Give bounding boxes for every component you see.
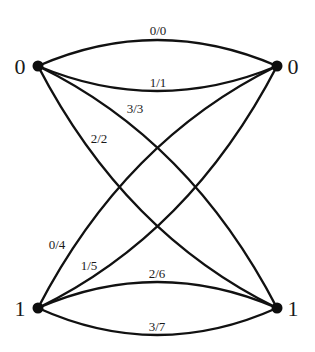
node-bottom-right [272,303,283,314]
node-bottom-left [33,303,44,314]
edge-label-0-4: 0/4 [49,237,66,252]
node-label-bottom-right: 1 [288,296,299,321]
edge-label-1-5: 1/5 [81,258,98,273]
edge-label-2-2: 2/2 [91,131,108,146]
node-label-top-right: 0 [288,54,299,79]
edge-label-3-3: 3/3 [127,101,144,116]
node-top-right [272,61,283,72]
edge-2-6 [38,282,277,308]
node-label-top-left: 0 [15,54,26,79]
node-top-left [33,61,44,72]
edge-label-2-6: 2/6 [149,266,166,281]
edge-label-1-1: 1/1 [150,75,167,90]
graph-diagram: 0 0 1 1 0/0 1/1 3/3 2/2 0/4 1/5 2/6 3/7 [0,0,315,352]
edge-label-0-0: 0/0 [150,23,167,38]
node-label-bottom-left: 1 [15,296,26,321]
edge-0-0 [38,40,277,66]
edge-label-3-7: 3/7 [149,319,166,334]
